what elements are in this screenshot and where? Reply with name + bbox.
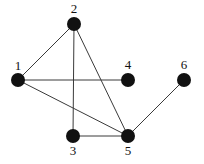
node-label-6: 6 [181, 57, 188, 72]
node-6 [177, 73, 191, 87]
node-label-1: 1 [15, 58, 22, 73]
graph-diagram: 123456 [0, 0, 204, 164]
node-1 [11, 73, 25, 87]
edges-group [18, 24, 184, 136]
node-2 [67, 17, 81, 31]
node-label-5: 5 [125, 143, 132, 158]
node-label-3: 3 [70, 143, 77, 158]
node-4 [121, 73, 135, 87]
edge-1-2 [18, 24, 74, 80]
node-3 [66, 129, 80, 143]
edge-5-6 [128, 80, 184, 136]
node-label-4: 4 [125, 57, 132, 72]
node-5 [121, 129, 135, 143]
node-label-2: 2 [71, 1, 78, 16]
edge-2-3 [73, 24, 74, 136]
